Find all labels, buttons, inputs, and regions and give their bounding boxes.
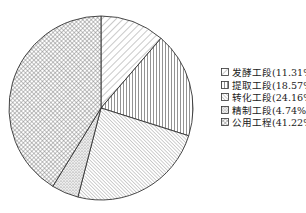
legend: 发酵工段(11.31%) 提取工段(18.57%) 转化工段(24.16%) 精… — [221, 66, 306, 129]
swatch-vertical-icon — [221, 81, 229, 89]
legend-item-conversion: 转化工段(24.16%) — [221, 91, 306, 104]
swatch-diagonal-icon — [221, 68, 229, 76]
legend-label: 公用工程(41.22%) — [232, 115, 306, 129]
swatch-dots-icon — [221, 106, 229, 114]
legend-item-utilities: 公用工程(41.22%) — [221, 116, 306, 129]
swatch-hatch-icon — [221, 93, 229, 101]
legend-item-extraction: 提取工段(18.57%) — [221, 79, 306, 92]
pie-chart — [0, 0, 210, 213]
swatch-crosshatch-icon — [221, 118, 229, 126]
legend-item-refining: 精制工段(4.74%) — [221, 104, 306, 117]
legend-item-fermentation: 发酵工段(11.31%) — [221, 66, 306, 79]
